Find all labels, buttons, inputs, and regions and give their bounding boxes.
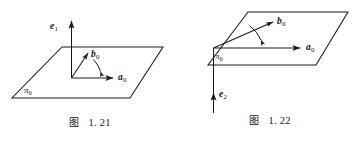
figure-caption-1-21: 图1. 21	[0, 114, 180, 129]
vector-b0-shaft	[214, 22, 274, 48]
plane-label-pi0: π0	[24, 86, 32, 95]
vector-label-b0: b0	[277, 17, 285, 27]
vector-b0-shaft	[72, 53, 89, 78]
caption-cjk-label: 图	[249, 115, 259, 126]
vector-label-a0: a0	[118, 73, 126, 83]
plane-label-pi0: π0	[215, 52, 223, 61]
figure-1-22: b0 a0 e2 π0 图1. 22	[180, 0, 360, 142]
vector-label-a0: a0	[306, 43, 314, 53]
caption-cjk-label: 图	[69, 117, 79, 128]
angle-arc	[94, 60, 101, 72]
figure-1-21: e1 b0 a0 π0 图1. 21	[0, 0, 180, 142]
vector-label-b0: b0	[91, 50, 99, 60]
caption-number: 1. 22	[268, 115, 291, 126]
figure-page: e1 b0 a0 π0 图1. 21	[0, 0, 360, 142]
caption-number: 1. 21	[88, 117, 111, 128]
vector-label-e1: e1	[50, 22, 58, 32]
vector-label-e2: e2	[219, 90, 227, 100]
figure-caption-1-22: 图1. 22	[180, 112, 360, 127]
